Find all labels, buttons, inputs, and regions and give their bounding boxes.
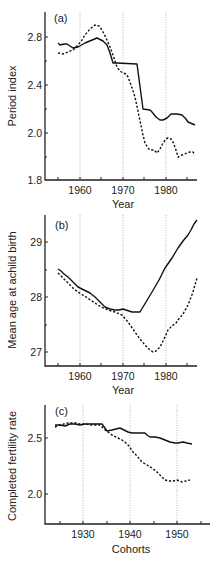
axes [45, 405, 210, 524]
x-tick-label: 1980 [154, 370, 178, 382]
series-solid [55, 424, 192, 444]
y-tick-label: 29 [30, 236, 42, 248]
axes [45, 215, 197, 366]
y-axis-title: Completed fertility rate [6, 411, 18, 521]
x-axis-title: Cohorts [112, 543, 151, 555]
y-tick-label: 1.8 [27, 174, 42, 186]
series-solid [58, 38, 195, 125]
figure: 2.8 2.4 2.0 1.8 1960 1970 1980 Year Peri… [0, 0, 218, 562]
y-tick-label: 2.0 [27, 127, 42, 139]
x-axis-title: Year [112, 384, 135, 396]
series-dashed [58, 273, 197, 352]
panel-label: (b) [55, 219, 68, 231]
y-axis-title: Period index [6, 65, 18, 127]
x-tick-label: 1970 [111, 370, 135, 382]
y-tick-label: 28 [30, 291, 42, 303]
series-dashed [55, 423, 190, 482]
x-axis-title: Year [112, 198, 135, 210]
panel-b-mean-age: 29 28 27 1960 1970 1980 Year Mean age at… [6, 215, 197, 396]
y-tick-label: 2.4 [27, 79, 42, 91]
panel-a-period-index: 2.8 2.4 2.0 1.8 1960 1970 1980 Year Peri… [6, 12, 197, 210]
panel-label: (c) [55, 405, 68, 417]
series-dashed [58, 25, 195, 157]
x-tick-label: 1940 [118, 528, 142, 540]
y-axis-title: Mean age at achild birth [6, 231, 18, 348]
x-tick-label: 1960 [68, 184, 92, 196]
x-tick-label: 1980 [154, 184, 178, 196]
series-solid [58, 220, 197, 312]
y-tick-label: 2.0 [27, 488, 42, 500]
axes [45, 12, 197, 180]
x-tick-label: 1930 [71, 528, 95, 540]
x-tick-label: 1970 [111, 184, 135, 196]
x-tick-label: 1960 [68, 370, 92, 382]
x-tick-label: 1950 [165, 528, 189, 540]
y-tick-label: 2.8 [27, 31, 42, 43]
panel-c-completed-fertility: 2.5 2.0 1930 1940 1950 Cohorts Completed… [6, 405, 210, 555]
panel-label: (a) [54, 12, 67, 24]
y-tick-label: 2.5 [27, 432, 42, 444]
y-tick-label: 27 [30, 346, 42, 358]
